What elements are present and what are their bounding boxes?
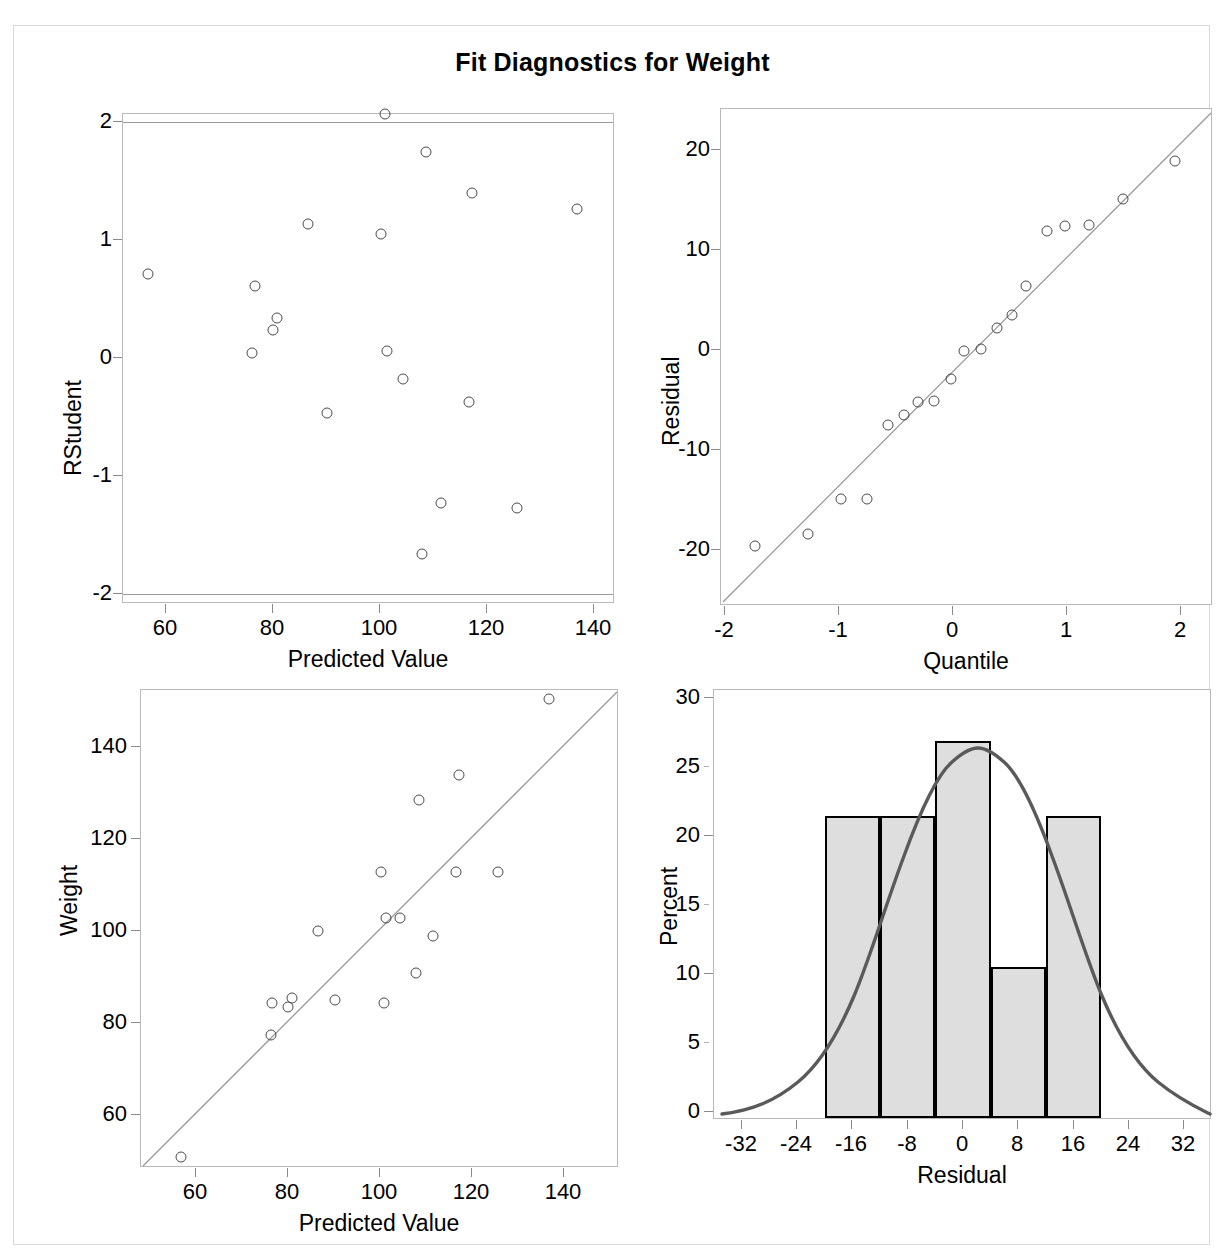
data-point bbox=[142, 268, 153, 279]
qq-x-tick: 1 bbox=[1060, 617, 1072, 643]
hist-y-tick: 20 bbox=[642, 822, 700, 848]
data-point bbox=[411, 967, 422, 978]
hist-x-tick: -24 bbox=[780, 1131, 812, 1157]
data-point bbox=[1117, 194, 1128, 205]
data-point bbox=[313, 926, 324, 937]
data-point bbox=[427, 930, 438, 941]
axis-tick bbox=[471, 1168, 472, 1177]
data-point bbox=[1006, 310, 1017, 321]
data-point bbox=[572, 203, 583, 214]
axis-tick bbox=[704, 904, 709, 905]
fit-x-tick: 60 bbox=[183, 1179, 207, 1205]
data-point bbox=[928, 395, 939, 406]
axis-tick bbox=[711, 249, 720, 250]
axis-tick bbox=[113, 475, 122, 476]
hist-y-tick: 10 bbox=[642, 960, 700, 986]
rstudent-x-tick: 80 bbox=[260, 615, 284, 641]
qq-y-tick: 20 bbox=[672, 136, 710, 162]
data-point bbox=[492, 866, 503, 877]
axis-tick bbox=[486, 604, 487, 613]
data-point bbox=[912, 396, 923, 407]
qq-plot-area bbox=[720, 108, 1212, 605]
data-point bbox=[321, 408, 332, 419]
axis-tick bbox=[704, 766, 709, 767]
fit-x-tick: 80 bbox=[275, 1179, 299, 1205]
reference-line-lower bbox=[123, 594, 613, 595]
axis-tick bbox=[1180, 606, 1181, 615]
axis-tick bbox=[711, 449, 720, 450]
residual-histogram-panel: Percent 30 25 20 15 10 5 0 bbox=[614, 646, 1211, 1246]
data-point bbox=[381, 345, 392, 356]
histogram-bar bbox=[880, 816, 935, 1118]
hist-x-tick: 8 bbox=[1011, 1131, 1023, 1157]
hist-x-tick: -32 bbox=[725, 1131, 757, 1157]
data-point bbox=[883, 420, 894, 431]
fit-y-tick: 80 bbox=[75, 1009, 127, 1035]
axis-tick bbox=[1183, 1120, 1184, 1129]
data-point bbox=[802, 529, 813, 540]
rstudent-x-tick: 140 bbox=[575, 615, 612, 641]
qq-y-tick: -20 bbox=[660, 536, 710, 562]
qq-x-tick: -1 bbox=[828, 617, 848, 643]
axis-tick bbox=[113, 121, 122, 122]
rstudent-y-tick: 2 bbox=[74, 108, 112, 134]
axis-tick bbox=[379, 604, 380, 613]
axis-tick bbox=[704, 973, 713, 974]
axis-tick bbox=[165, 604, 166, 613]
data-point bbox=[1084, 220, 1095, 231]
rstudent-y-tick: -1 bbox=[69, 462, 112, 488]
data-point bbox=[836, 494, 847, 505]
data-point bbox=[267, 997, 278, 1008]
data-point bbox=[267, 325, 278, 336]
data-point bbox=[463, 397, 474, 408]
rstudent-x-tick: 120 bbox=[468, 615, 505, 641]
axis-tick bbox=[851, 1120, 852, 1129]
axis-tick bbox=[1128, 1120, 1129, 1129]
hist-x-tick: -16 bbox=[835, 1131, 867, 1157]
axis-tick bbox=[113, 239, 122, 240]
rstudent-y-tick: 0 bbox=[74, 344, 112, 370]
qq-x-tick: -2 bbox=[714, 617, 734, 643]
rstudent-plot-area bbox=[122, 113, 614, 603]
data-point bbox=[395, 912, 406, 923]
data-point bbox=[175, 1151, 186, 1162]
data-point bbox=[958, 346, 969, 357]
axis-tick bbox=[131, 838, 140, 839]
axis-tick bbox=[131, 930, 140, 931]
page-title: Fit Diagnostics for Weight bbox=[14, 48, 1211, 77]
data-point bbox=[1021, 280, 1032, 291]
normal-quantile-panel: Residual 20 10 0 -10 -20 bbox=[614, 86, 1211, 646]
data-point bbox=[265, 1029, 276, 1040]
reference-line-upper bbox=[123, 122, 613, 123]
data-point bbox=[1042, 225, 1053, 236]
axis-tick bbox=[711, 549, 720, 550]
hist-y-tick: 5 bbox=[642, 1029, 700, 1055]
axis-tick bbox=[1073, 1120, 1074, 1129]
axis-tick bbox=[113, 593, 122, 594]
data-point bbox=[862, 494, 873, 505]
axis-tick bbox=[131, 1022, 140, 1023]
histogram-bar bbox=[825, 816, 880, 1118]
hist-y-tick: 15 bbox=[642, 891, 700, 917]
fit-x-tick: 140 bbox=[545, 1179, 582, 1205]
fit-y-tick: 100 bbox=[61, 917, 127, 943]
histogram-bar bbox=[991, 967, 1046, 1118]
data-point bbox=[272, 312, 283, 323]
data-point bbox=[398, 374, 409, 385]
axis-tick bbox=[704, 835, 713, 836]
rstudent-x-tick: 100 bbox=[361, 615, 398, 641]
axis-tick bbox=[838, 606, 839, 615]
data-point bbox=[1170, 156, 1181, 167]
axis-tick bbox=[131, 746, 140, 747]
data-point bbox=[249, 280, 260, 291]
qq-y-tick: -10 bbox=[660, 436, 710, 462]
axis-tick bbox=[741, 1120, 742, 1129]
axis-tick bbox=[704, 1042, 709, 1043]
fit-plot-area bbox=[140, 689, 618, 1167]
hist-x-tick: 32 bbox=[1171, 1131, 1195, 1157]
fit-y-tick: 60 bbox=[75, 1101, 127, 1127]
observed-by-predicted-panel: Weight 140 120 100 80 60 bbox=[14, 646, 614, 1246]
axis-tick bbox=[962, 1120, 963, 1129]
histogram-bar bbox=[935, 741, 990, 1118]
data-point bbox=[379, 109, 390, 120]
